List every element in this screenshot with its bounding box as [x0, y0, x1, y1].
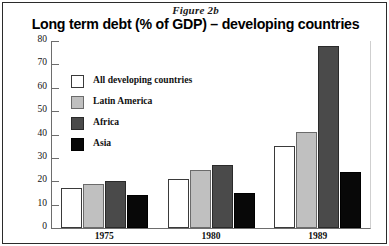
bar [168, 179, 189, 228]
legend-swatch [71, 75, 84, 88]
y-axis-tick-mark [52, 135, 59, 136]
y-axis-tick-label: 30 [17, 151, 47, 161]
y-axis-tick-label: 40 [17, 128, 47, 138]
bar [212, 165, 233, 228]
figure-label: Figure 2b [3, 4, 388, 16]
legend-swatch [71, 96, 84, 109]
bar [234, 193, 255, 228]
y-axis-tick-mark [52, 158, 59, 159]
x-axis-label: 1975 [54, 231, 154, 241]
legend-label: Asia [93, 137, 111, 148]
legend-label: Latin America [93, 95, 152, 106]
y-axis-tick: 30 [5, 158, 59, 159]
y-axis-tick-label: 10 [17, 198, 47, 208]
y-axis-tick-label: 70 [17, 57, 47, 67]
bar [105, 181, 126, 228]
bar-group [274, 41, 361, 228]
y-axis-tick-mark [52, 64, 59, 65]
bar [190, 170, 211, 228]
bar [61, 188, 82, 228]
y-axis-tick-label: 50 [17, 104, 47, 114]
y-axis-tick-mark [52, 205, 59, 206]
bar-group [168, 41, 255, 228]
bar [127, 195, 148, 228]
y-axis-tick: 40 [5, 135, 59, 136]
y-axis-tick-mark [52, 41, 59, 42]
y-axis-tick: 70 [5, 64, 59, 65]
bar [83, 184, 104, 228]
y-axis-tick: 20 [5, 181, 59, 182]
y-axis-tick: 80 [5, 41, 59, 42]
y-axis-tick: 50 [5, 111, 59, 112]
y-axis-tick-label: 80 [17, 34, 47, 44]
bar [340, 172, 361, 228]
y-axis-tick-label: 60 [17, 81, 47, 91]
y-axis-tick-mark [52, 228, 59, 229]
y-axis-tick-label: 0 [17, 221, 47, 231]
legend-swatch [71, 138, 84, 151]
y-axis-tick-mark [52, 111, 59, 112]
legend-label: All developing countries [93, 74, 192, 85]
x-axis-label: 1989 [268, 231, 368, 241]
figure-frame: Figure 2b Long term debt (% of GDP) – de… [2, 2, 387, 244]
bar [274, 146, 295, 228]
x-axis-label: 1980 [161, 231, 261, 241]
y-axis-tick-label: 20 [17, 174, 47, 184]
y-axis-tick: 0 [5, 228, 59, 229]
y-axis-tick: 60 [5, 88, 59, 89]
y-axis-tick: 10 [5, 205, 59, 206]
y-axis-tick-mark [52, 88, 59, 89]
y-axis-tick-mark [52, 181, 59, 182]
bar [296, 132, 317, 228]
bar-group [61, 41, 148, 228]
legend-swatch [71, 117, 84, 130]
bar [318, 46, 339, 228]
plot-area: 80706050403020100 197519801989 [51, 41, 371, 229]
legend-label: Africa [93, 116, 119, 127]
chart-title: Long term debt (% of GDP) – developing c… [3, 16, 388, 32]
